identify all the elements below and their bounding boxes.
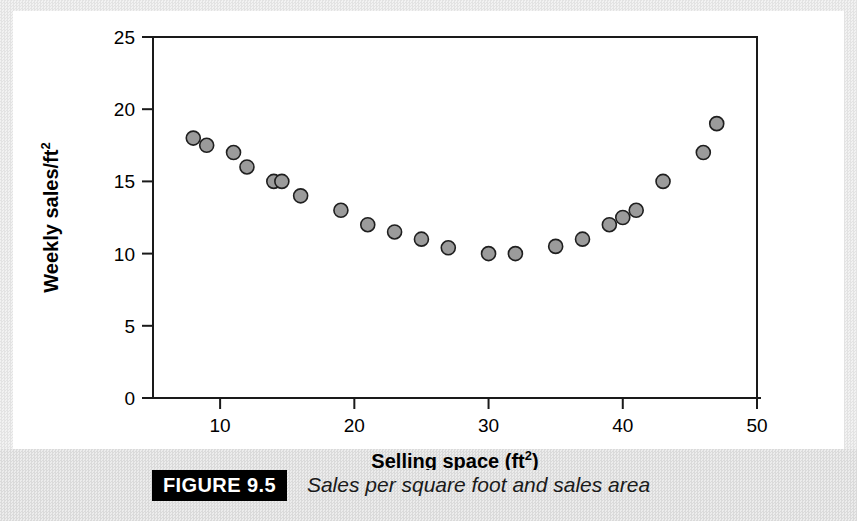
data-point <box>549 239 563 253</box>
y-axis-title: Weekly sales/ft2 <box>38 142 62 292</box>
data-point <box>388 225 402 239</box>
data-point <box>200 138 214 152</box>
figure-caption-text: Sales per square foot and sales area <box>307 473 650 497</box>
data-point <box>576 232 590 246</box>
plot-box <box>153 37 757 398</box>
data-point <box>656 174 670 188</box>
data-point <box>616 211 630 225</box>
data-point <box>294 189 308 203</box>
data-point <box>227 146 241 160</box>
y-tick-label: 0 <box>124 388 135 409</box>
x-tick-label: 20 <box>344 415 365 436</box>
y-tick-label: 20 <box>114 99 135 120</box>
data-point <box>710 117 724 131</box>
y-tick-label: 25 <box>114 27 135 48</box>
x-tick-label: 50 <box>746 415 767 436</box>
x-axis-ticks: 1020304050 <box>210 398 768 436</box>
data-point <box>240 160 254 174</box>
y-tick-label: 5 <box>124 316 135 337</box>
data-point <box>482 247 496 261</box>
y-axis-ticks: 0510152025 <box>114 27 153 409</box>
x-tick-label: 10 <box>210 415 231 436</box>
x-tick-label: 30 <box>478 415 499 436</box>
figure-caption: FIGURE 9.5 Sales per square foot and sal… <box>0 449 857 521</box>
data-point <box>275 174 289 188</box>
plot-frame <box>153 37 761 398</box>
figure-page: 0510152025 1020304050 Selling space (ft2… <box>0 0 857 521</box>
y-tick-label: 10 <box>114 244 135 265</box>
data-point <box>441 241 455 255</box>
data-point <box>334 203 348 217</box>
data-point <box>361 218 375 232</box>
chart-svg: 0510152025 1020304050 Selling space (ft2… <box>0 0 857 470</box>
x-tick-label: 40 <box>612 415 633 436</box>
data-points-layer <box>186 117 723 261</box>
figure-number-tag: FIGURE 9.5 <box>152 470 287 501</box>
data-point <box>602 218 616 232</box>
y-tick-label: 15 <box>114 171 135 192</box>
data-point <box>414 232 428 246</box>
data-point <box>629 203 643 217</box>
scatter-chart: 0510152025 1020304050 Selling space (ft2… <box>0 0 857 470</box>
data-point <box>186 131 200 145</box>
data-point <box>696 146 710 160</box>
data-point <box>508 247 522 261</box>
